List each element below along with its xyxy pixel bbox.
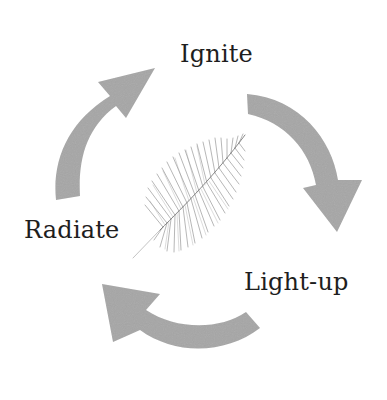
- label-ignite: Ignite: [180, 42, 253, 66]
- faint-watermark: [75, 382, 285, 390]
- label-radiate: Radiate: [24, 218, 120, 242]
- label-lightup: Light-up: [244, 270, 349, 294]
- cycle-diagram: Ignite Radiate Light-up: [0, 0, 387, 400]
- arrow-ignite-to-lightup: [247, 94, 362, 232]
- fern-leaf-icon: [133, 134, 245, 258]
- arrow-lightup-to-radiate: [102, 284, 260, 349]
- arrow-radiate-to-ignite: [55, 68, 155, 200]
